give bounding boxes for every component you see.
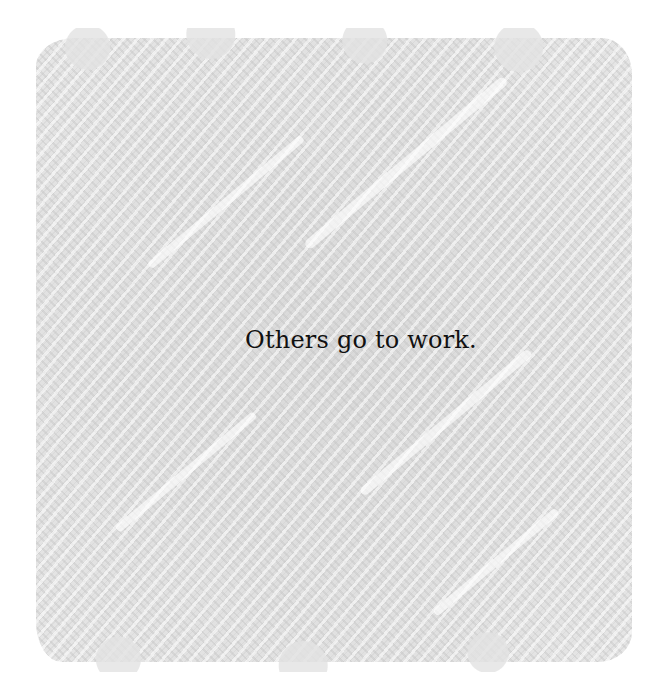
- caption: Others go to work.: [0, 326, 664, 354]
- highlight-streak: [147, 135, 305, 270]
- highlight-streak: [114, 411, 257, 533]
- highlight-streak: [432, 508, 560, 617]
- page: Others go to work.: [0, 0, 664, 699]
- caption-text: Others go to work.: [187, 326, 477, 354]
- highlight-streak: [359, 348, 533, 496]
- highlight-streak: [303, 76, 509, 251]
